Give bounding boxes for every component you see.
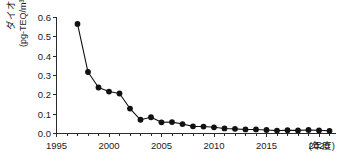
data-point — [148, 114, 154, 120]
data-point — [85, 69, 91, 75]
data-point — [138, 117, 144, 123]
x-tick-label: 2015 — [256, 140, 277, 151]
data-point — [75, 21, 81, 27]
data-point — [295, 128, 301, 134]
y-axis-unit-text: (pg-TEQ/m³) — [18, 0, 28, 47]
chart-canvas: ダイオキシン類濃度 (pg-TEQ/m³) 0.6 0.5 0.4 0.3 0.… — [0, 0, 343, 167]
data-point — [316, 128, 322, 134]
data-point — [232, 126, 238, 132]
data-point — [201, 124, 207, 130]
x-axis-label: (年度) — [309, 140, 335, 151]
data-point — [306, 127, 312, 133]
data-point — [222, 126, 228, 132]
x-tick-label: 2010 — [203, 140, 224, 151]
y-axis-label-text: ダイオキシン類濃度 — [5, 0, 16, 30]
dioxin-concentration-line-chart: ダイオキシン類濃度 (pg-TEQ/m³) 0.6 0.5 0.4 0.3 0.… — [0, 0, 343, 167]
data-point — [190, 123, 196, 129]
y-tick-label: 0.3 — [38, 70, 51, 81]
x-tick-label: 2000 — [98, 140, 119, 151]
data-point — [274, 128, 280, 134]
data-point — [327, 128, 333, 134]
data-point — [96, 85, 102, 91]
data-point — [264, 127, 270, 133]
x-tick-label: 1995 — [46, 140, 67, 151]
y-tick-label: 0.5 — [38, 31, 51, 42]
data-point — [285, 127, 291, 133]
data-point — [169, 119, 175, 125]
data-point — [253, 127, 259, 133]
y-tick-label: 0.0 — [38, 128, 51, 139]
data-point — [180, 121, 186, 127]
data-point — [106, 89, 112, 95]
data-point — [127, 106, 133, 112]
data-point — [117, 91, 123, 97]
y-tick-label: 0.6 — [38, 12, 51, 23]
data-point — [211, 124, 217, 130]
y-tick-label: 0.2 — [38, 89, 51, 100]
x-tick-label: 2005 — [151, 140, 172, 151]
data-point — [243, 127, 249, 133]
y-tick-label: 0.4 — [38, 51, 51, 62]
data-point — [159, 119, 165, 125]
y-tick-label: 0.1 — [38, 109, 51, 120]
